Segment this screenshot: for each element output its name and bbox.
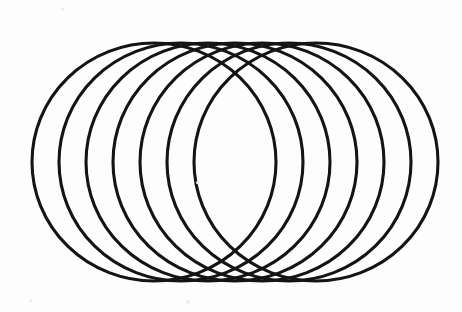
figure-container bbox=[0, 0, 462, 312]
ellipse-figure-canvas bbox=[0, 0, 462, 312]
